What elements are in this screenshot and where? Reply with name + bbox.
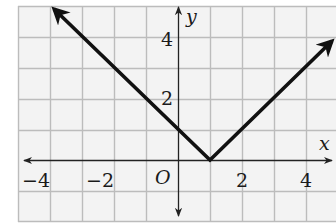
- y-tick-label-4: 4: [161, 28, 173, 50]
- x-tick-label-neg4: −4: [22, 169, 50, 191]
- x-axis-label: x: [319, 132, 330, 154]
- x-tick-label-4: 4: [300, 169, 312, 191]
- y-tick-label-2: 2: [161, 87, 173, 109]
- graph-canvas: y x O −4 −2 2 4 2 4: [0, 0, 336, 224]
- y-axis-label: y: [185, 5, 197, 27]
- grid-background: [18, 6, 336, 222]
- x-tick-label-2: 2: [236, 169, 248, 191]
- x-tick-label-neg2: −2: [86, 169, 114, 191]
- origin-label: O: [155, 166, 171, 188]
